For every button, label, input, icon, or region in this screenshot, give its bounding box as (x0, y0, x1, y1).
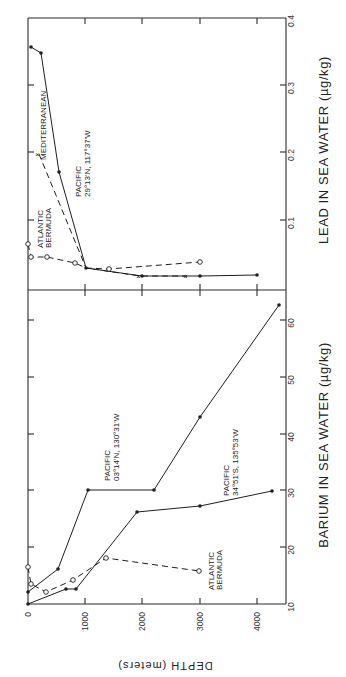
svg-text:20: 20 (286, 545, 296, 555)
depth-tick-labels: 0 1000 2000 3000 4000 (23, 612, 262, 631)
svg-text:0.4: 0.4 (286, 15, 296, 27)
series-barium-pacific-south (26, 489, 274, 606)
svg-text:0.2: 0.2 (286, 149, 296, 161)
label-pacific-ba1-2: 03°14'N, 130°31'W (112, 413, 121, 481)
svg-text:3000: 3000 (195, 612, 205, 631)
barium-ticks (28, 320, 286, 547)
chart-frame (28, 18, 286, 604)
x-marker: × (183, 272, 188, 281)
label-pacific-lead-2: 29°13'N, 117°37'W (83, 130, 92, 197)
label-pacific-ba2-1: PACIFIC (222, 465, 231, 496)
series-barium-atlantic (26, 556, 202, 595)
label-atlantic-ba-2: BERMUDA (215, 549, 224, 590)
lead-tick-labels: 0.1 0.2 0.3 0.4 (286, 15, 296, 229)
svg-text:0.3: 0.3 (286, 82, 296, 94)
svg-text:50: 50 (286, 375, 296, 385)
series-lead-pacific (29, 45, 259, 278)
chart-figure: 0.1 0.2 0.3 0.4 10 20 30 40 50 60 0 1000… (0, 0, 346, 677)
label-pacific-ba1-1: PACIFIC (103, 450, 112, 481)
series-barium-pacific-north (26, 303, 281, 594)
depth-ticks (85, 18, 257, 604)
series-lead-mediterranean: × × × (35, 150, 188, 281)
svg-text:10: 10 (286, 602, 296, 612)
label-atlantic-lead-2: BERMUDA (44, 207, 53, 248)
label-pacific-ba2-2: 34°51'S, 135°53'W (231, 429, 240, 496)
svg-text:0: 0 (23, 612, 33, 617)
svg-text:0.1: 0.1 (286, 217, 296, 229)
svg-text:2000: 2000 (137, 612, 147, 631)
label-pacific-lead-1: PACIFIC (74, 166, 83, 197)
svg-text:1000: 1000 (80, 612, 90, 631)
svg-text:4000: 4000 (252, 612, 262, 631)
barium-tick-labels: 10 20 30 40 50 60 (286, 318, 296, 612)
lead-axis-title: LEAD IN SEA WATER (µg/kg) (316, 56, 331, 244)
depth-axis-title: DEPTH (meters) (117, 660, 212, 672)
svg-text:30: 30 (286, 488, 296, 498)
svg-text:40: 40 (286, 432, 296, 442)
barium-axis-title: BARIUM IN SEA WATER (µg/kg) (316, 342, 331, 548)
label-mediterranean: MEDITERRANEAN (39, 90, 48, 160)
svg-text:60: 60 (286, 318, 296, 328)
x-marker: × (136, 272, 141, 281)
